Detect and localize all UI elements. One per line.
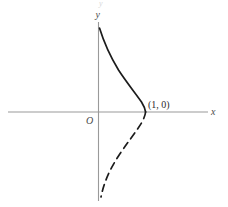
figure-canvas: y y x O (1, 0) <box>0 0 228 207</box>
point-label-1-0: (1, 0) <box>148 99 170 111</box>
solid-curve-branch <box>100 28 146 112</box>
origin-label: O <box>86 115 93 126</box>
y-axis-label: y <box>95 9 101 20</box>
x-axis-label: x <box>210 106 216 117</box>
dashed-curve-branch <box>101 112 146 197</box>
math-figure: y y x O (1, 0) <box>0 0 228 207</box>
top-crop-artifact: y <box>98 0 103 8</box>
